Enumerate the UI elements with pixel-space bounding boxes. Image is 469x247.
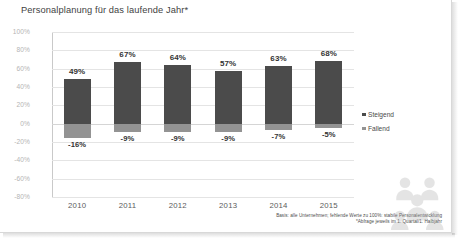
bar-value-label-fallend: -9% [201,134,256,143]
gridline [52,197,354,198]
gridline [52,124,354,125]
plot-area: 49%-16%67%-9%64%-9%57%-9%63%-7%68%-5% [52,32,354,197]
bar-segment-steigend[interactable] [215,71,242,123]
category-axis-label: 2010 [52,201,102,210]
bar-segment-steigend[interactable] [114,62,141,123]
bar-group[interactable]: 57%-9% [215,32,242,197]
category-axis-label: 2014 [254,201,304,210]
value-axis-tick-label: 0% [0,120,30,127]
bar-value-label-fallend: -16% [50,140,105,149]
legend-label: Steigend [368,111,394,118]
category-axis-label: 2013 [203,201,253,210]
bar-value-label-steigend: 67% [100,50,155,59]
value-axis-tick-label: -40% [0,156,30,163]
bar-value-label-steigend: 57% [201,59,256,68]
bar-segment-fallend[interactable] [164,124,191,132]
bar-value-label-fallend: -9% [100,134,155,143]
value-axis-tick-label: 100% [0,28,30,35]
category-axis-label: 2015 [304,201,354,210]
gridline [52,87,354,88]
bar-segment-fallend[interactable] [215,124,242,132]
bar-group[interactable]: 64%-9% [164,32,191,197]
people-group-icon [391,174,447,230]
bar-segment-steigend[interactable] [164,65,191,124]
page-title: Personalplanung für das laufende Jahr* [21,5,188,15]
legend-swatch-icon [362,113,366,117]
value-axis-tick-label: 40% [0,83,30,90]
gridline [52,179,354,180]
bar-group[interactable]: 63%-7% [265,32,292,197]
category-axis-label: 2011 [103,201,153,210]
gridline [52,105,354,106]
legend-swatch-icon [362,127,366,131]
value-axis-tick-label: 20% [0,101,30,108]
value-axis-tick-label: -60% [0,175,30,182]
bar-value-label-fallend: -5% [301,130,356,139]
legend-label: Fallend [368,125,390,132]
slide-shadow-right [452,2,458,235]
bar-value-label-fallend: -9% [150,134,205,143]
bar-segment-fallend[interactable] [315,124,342,129]
bar-segment-fallend[interactable] [64,124,91,139]
slide-page: Personalplanung für das laufende Jahr* 1… [0,0,452,233]
value-axis-tick-label: 60% [0,65,30,72]
bar-group[interactable]: 68%-5% [315,32,342,197]
bar-segment-steigend[interactable] [315,61,342,123]
chart-legend: SteigendFallend [362,111,394,139]
legend-item[interactable]: Steigend [362,111,394,118]
value-axis-tick-label: -20% [0,138,30,145]
bar-value-label-steigend: 63% [251,54,306,63]
gridline [52,160,354,161]
bar-value-label-steigend: 68% [301,49,356,58]
legend-item[interactable]: Fallend [362,125,394,132]
bar-segment-fallend[interactable] [265,124,292,130]
bar-value-label-steigend: 49% [50,67,105,76]
value-axis-tick-label: 80% [0,46,30,53]
gridline [52,32,354,33]
bar-value-label-steigend: 64% [150,53,205,62]
bar-group[interactable]: 49%-16% [64,32,91,197]
value-axis-tick-label: -80% [0,193,30,200]
slide-shadow-bottom [3,233,455,238]
category-axis-label: 2012 [153,201,203,210]
bar-segment-fallend[interactable] [114,124,141,132]
bar-group[interactable]: 67%-9% [114,32,141,197]
bar-segment-steigend[interactable] [64,79,91,124]
bar-value-label-fallend: -7% [251,132,306,141]
bar-segment-steigend[interactable] [265,66,292,124]
